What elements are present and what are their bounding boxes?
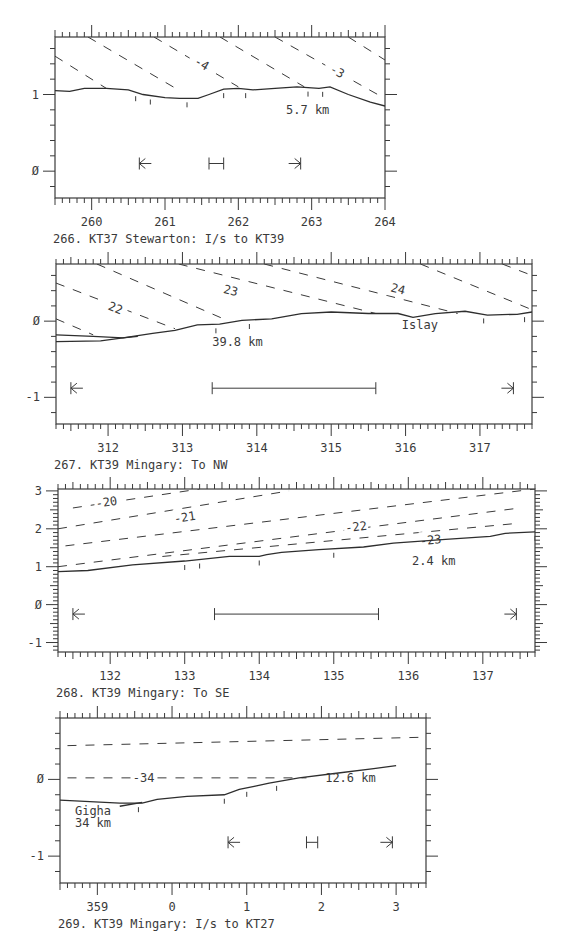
x-tick-label: 2 <box>318 900 325 914</box>
x-tick-label: 0 <box>168 900 175 914</box>
range-markers <box>228 836 392 848</box>
y-tick-label: 1 <box>35 560 42 574</box>
contour-line <box>502 264 532 275</box>
contour-line <box>67 737 426 745</box>
y-axis: -1Ø <box>30 718 438 871</box>
y-axis: -1Ø <box>26 275 544 412</box>
terrain-profile-line <box>58 532 535 572</box>
annotation-label: 39.8 km <box>212 335 263 349</box>
contour-line <box>73 489 200 508</box>
y-tick-label: Ø <box>32 164 40 178</box>
x-tick-label: 1 <box>243 900 250 914</box>
contour-line <box>55 56 106 88</box>
contour-line <box>65 489 535 546</box>
plot-frame <box>55 37 385 198</box>
range-bar-icon <box>215 608 379 620</box>
right-limit-arrow-icon <box>504 608 516 620</box>
x-tick-label: 314 <box>246 441 268 455</box>
panel-caption: 268. KT39 Mingary: To SE <box>56 686 229 700</box>
contour-label: -21 <box>173 509 197 526</box>
right-limit-arrow-icon <box>501 382 513 394</box>
x-tick-label: 315 <box>320 441 342 455</box>
contour-line <box>220 37 304 87</box>
contour-label: 24 <box>389 281 406 298</box>
left-limit-arrow-icon <box>228 836 240 848</box>
x-tick-label: 3 <box>393 900 400 914</box>
contour-line <box>56 319 93 335</box>
x-tick-label: 262 <box>227 215 249 229</box>
panel-caption: 269. KT39 Mingary: I/s to KT27 <box>58 917 275 931</box>
x-tick-label: 312 <box>97 441 119 455</box>
y-tick-label: 1 <box>32 88 39 102</box>
y-tick-label: Ø <box>37 772 45 786</box>
plot-area: -4-3 <box>55 37 385 107</box>
terrain-profile-line <box>55 87 385 106</box>
contour-line <box>348 37 385 60</box>
contour-line <box>420 264 532 310</box>
terrain-profile-line <box>56 311 532 341</box>
left-limit-arrow-icon <box>139 158 151 170</box>
x-tick-label: 137 <box>472 669 494 683</box>
y-tick-label: Ø <box>35 598 43 612</box>
y-tick-label: Ø <box>33 314 41 328</box>
x-tick-label: 135 <box>323 669 345 683</box>
x-tick-label: 134 <box>248 669 270 683</box>
range-bar-icon <box>209 158 224 170</box>
right-limit-arrow-icon <box>380 836 392 848</box>
right-limit-arrow-icon <box>289 158 301 170</box>
annotation-label: 12.6 km <box>325 771 376 785</box>
y-tick-label: 2 <box>35 522 42 536</box>
plot-frame <box>56 264 532 424</box>
x-tick-label: 260 <box>81 215 103 229</box>
x-tick-label: 359 <box>87 900 109 914</box>
annotation-label: Islay <box>402 318 438 332</box>
y-tick-label: -1 <box>28 636 42 650</box>
contour-label: -34 <box>133 771 155 785</box>
left-limit-arrow-icon <box>71 382 83 394</box>
annotation-label: 5.7 km <box>286 103 329 117</box>
plot-frame <box>60 718 426 883</box>
x-tick-label: 313 <box>172 441 194 455</box>
panel-caption: 267. KT39 Mingary: To NW <box>54 458 228 472</box>
x-tick-label: 263 <box>301 215 323 229</box>
y-tick-label: -1 <box>30 849 44 863</box>
x-tick-label: 261 <box>154 215 176 229</box>
contour-line <box>179 264 376 314</box>
range-markers <box>73 608 516 620</box>
x-tick-label: 264 <box>374 215 396 229</box>
y-tick-label: 3 <box>35 484 42 498</box>
x-tick-label: 132 <box>99 669 121 683</box>
figure-canvas: 260261262263264Ø1-4-35.7 km266. KT37 Ste… <box>0 0 572 949</box>
plot-area: 222324 <box>56 264 532 342</box>
annotation-label: 34 km <box>75 816 111 830</box>
contour-line <box>264 264 457 314</box>
y-tick-label: -1 <box>26 390 40 404</box>
chart-panel-267: 312313314315316317-1Ø22232439.8 kmIslay2… <box>26 252 544 472</box>
range-bar-icon <box>306 836 317 848</box>
range-markers <box>71 382 514 394</box>
contour-line <box>88 37 180 91</box>
plot-frame <box>58 489 535 652</box>
x-tick-label: 133 <box>174 669 196 683</box>
contour-label: -22 <box>344 519 367 536</box>
left-limit-arrow-icon <box>73 608 85 620</box>
x-tick-label: 136 <box>397 669 419 683</box>
annotation-label: 2.4 km <box>412 554 455 568</box>
x-tick-label: 316 <box>395 441 417 455</box>
range-markers <box>139 158 300 170</box>
x-tick-label: 317 <box>469 441 491 455</box>
panel-caption: 266. KT37 Stewarton: I/s to KT39 <box>53 232 284 246</box>
chart-panel-266: 260261262263264Ø1-4-35.7 km266. KT37 Ste… <box>32 25 397 246</box>
plot-area: -20-21-22-23 <box>58 489 535 572</box>
chart-panel-268: 132133134135136137-1Ø123-20-21-22-232.4 … <box>28 477 547 700</box>
chart-panel-269: 3590123-1Ø-3412.6 kmGigha34 km269. KT39 … <box>30 706 438 931</box>
range-bar-icon <box>212 382 376 394</box>
